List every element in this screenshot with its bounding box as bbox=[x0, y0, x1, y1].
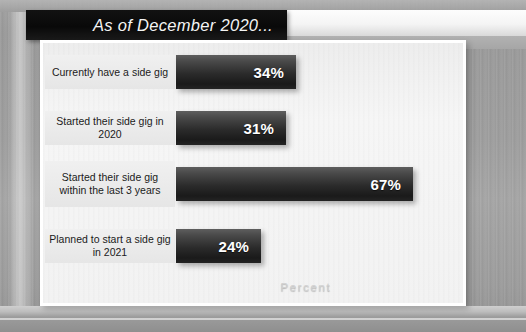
chart-bar: 34% bbox=[176, 55, 296, 89]
bar-value-label: 67% bbox=[370, 176, 413, 193]
chart-bar: 67% bbox=[176, 167, 413, 201]
bar-value-label: 31% bbox=[243, 120, 286, 137]
bar-value-label: 34% bbox=[253, 64, 296, 81]
chart-bar-row: Planned to start a side gig in 202124% bbox=[43, 229, 463, 263]
background-left-highlight bbox=[8, 12, 34, 312]
chart-bar: 31% bbox=[176, 111, 286, 145]
chart-frame: Currently have a side gig34%Started thei… bbox=[40, 40, 466, 306]
category-label: Started their side gig within the last 3… bbox=[45, 161, 175, 207]
chart-screenshot: As of December 2020... Currently have a … bbox=[0, 0, 526, 332]
category-label: Started their side gig in 2020 bbox=[45, 111, 175, 145]
category-label: Planned to start a side gig in 2021 bbox=[45, 229, 175, 263]
category-label: Currently have a side gig bbox=[45, 55, 175, 89]
background-band-white bbox=[282, 10, 526, 36]
bar-value-label: 24% bbox=[218, 238, 261, 255]
chart-bar-row: Currently have a side gig34% bbox=[43, 55, 463, 89]
background-hairline bbox=[0, 318, 526, 320]
chart-bar-row: Started their side gig within the last 3… bbox=[43, 167, 463, 201]
x-axis-title: Percent bbox=[206, 281, 406, 293]
bar-rows: Currently have a side gig34%Started thei… bbox=[43, 43, 463, 303]
chart-title-bar: As of December 2020... bbox=[26, 10, 287, 40]
chart-title: As of December 2020... bbox=[93, 16, 287, 35]
plot-area: Currently have a side gig34%Started thei… bbox=[43, 43, 463, 303]
chart-bar: 24% bbox=[176, 229, 261, 263]
chart-bar-row: Started their side gig in 202031% bbox=[43, 111, 463, 145]
